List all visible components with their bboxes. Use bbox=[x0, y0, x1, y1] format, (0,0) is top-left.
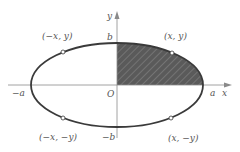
label-origin: O bbox=[107, 89, 115, 99]
label-point-q1: (x, y) bbox=[164, 31, 187, 41]
x-axis-arrow-icon bbox=[224, 83, 232, 88]
point-q2 bbox=[61, 50, 65, 54]
label-neg-a: −a bbox=[12, 88, 25, 98]
point-q3 bbox=[61, 116, 65, 120]
point-q1 bbox=[170, 51, 174, 55]
y-axis-arrow-icon bbox=[115, 11, 120, 19]
label-y-axis: y bbox=[106, 11, 113, 21]
label-neg-b: −b bbox=[102, 132, 116, 142]
label-a: a bbox=[210, 88, 215, 98]
label-point-q3: (−x, −y) bbox=[39, 132, 77, 142]
label-point-q4: (x, −y) bbox=[168, 133, 199, 143]
label-b: b bbox=[107, 32, 113, 42]
label-x-axis: x bbox=[222, 88, 227, 98]
ellipse-diagram: (x, y) (−x, y) (−x, −y) (x, −y) b −b −a … bbox=[0, 0, 240, 152]
label-point-q2: (−x, y) bbox=[42, 31, 73, 41]
point-q4 bbox=[169, 116, 173, 120]
